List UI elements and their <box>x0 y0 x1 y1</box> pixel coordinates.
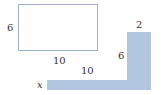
l-shape-top-width-label: 2 <box>136 20 142 30</box>
rectangle-width-label: 10 <box>53 56 66 66</box>
rectangle-height-label: 6 <box>7 23 13 33</box>
rectangle <box>18 4 98 51</box>
l-shape-vertical-height-label: 6 <box>118 51 124 61</box>
l-shape-horizontal-bar <box>47 80 151 90</box>
l-shape-thickness-label: x <box>37 80 43 90</box>
l-shape-horizontal-length-label: 10 <box>81 66 94 76</box>
